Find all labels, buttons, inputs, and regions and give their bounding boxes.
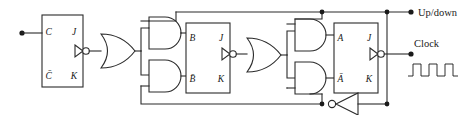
inverter-1 — [328, 93, 358, 115]
wire-topbus-to-and2top — [295, 12, 322, 19]
and-gate-2-top — [295, 19, 326, 51]
or-gate-1 — [101, 34, 135, 68]
flipflop-c: C J C̄ K — [42, 15, 89, 87]
wire-or1-to-and1top — [141, 28, 149, 51]
flipflop-c-clock-bubble — [83, 48, 90, 55]
flipflop-a-pin-top-left: A — [337, 33, 344, 43]
flipflop-b-pin-k: K — [217, 74, 225, 84]
circuit-canvas: C J C̄ K B J B̄ K — [0, 0, 474, 115]
wire-or2-to-and2bottom — [287, 55, 295, 78]
up-down-terminal-dot — [408, 9, 413, 14]
flipflop-a-pin-bottom-left: Ā — [337, 73, 344, 84]
flipflop-b-pin-top-left: B — [190, 33, 196, 43]
and-gate-1-top — [149, 17, 181, 49]
inverter-1-bubble — [328, 100, 335, 107]
flipflop-c-pin-top-left: C — [46, 27, 53, 37]
or-gate-1-body — [101, 34, 135, 68]
clock-waveform-trace — [408, 64, 458, 76]
junction-trunk-inverter — [385, 102, 390, 107]
junction-bottombus-inverter — [320, 102, 325, 107]
flipflop-b-clock-bubble — [230, 51, 237, 58]
and-gate-1-bottom — [149, 60, 181, 92]
or-gate-2 — [247, 38, 281, 72]
wire-or2-to-and2top — [287, 31, 295, 55]
wire-or1-to-and1bottom — [141, 51, 149, 75]
clock-waveform — [408, 64, 458, 76]
input-terminal-group — [19, 30, 42, 35]
junction-topbus-trunk — [385, 10, 390, 15]
and-gate-2-bottom-body — [295, 62, 326, 94]
flipflop-c-pin-k: K — [70, 71, 78, 81]
and-gate-2-bottom — [295, 62, 326, 94]
up-down-label: Up/down — [418, 7, 458, 18]
flipflop-a-clock-bubble — [378, 51, 385, 58]
flipflop-c-pin-bottom-left: C̄ — [46, 70, 53, 81]
and-gate-1-bottom-body — [149, 60, 181, 92]
and-gate-2-top-body — [295, 19, 326, 51]
or-gate-2-body — [247, 38, 281, 72]
flipflop-a: A J Ā K — [334, 23, 384, 93]
junction-topbus-and2top — [320, 10, 325, 15]
flipflop-b: B J B̄ K — [186, 23, 236, 93]
clock-terminal-dot — [408, 51, 413, 56]
flipflop-b-pin-bottom-left: B̄ — [190, 74, 196, 84]
and-gate-1-top-body — [149, 17, 181, 49]
logic-diagram: C J C̄ K B J B̄ K — [0, 0, 474, 115]
flipflop-a-pin-k: K — [365, 74, 373, 84]
inverter-1-body — [336, 93, 358, 115]
clock-label: Clock — [414, 38, 440, 49]
